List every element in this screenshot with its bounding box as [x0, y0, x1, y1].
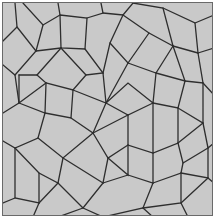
penrose-tiling-image — [2, 2, 213, 216]
tiling-lines — [3, 3, 213, 216]
